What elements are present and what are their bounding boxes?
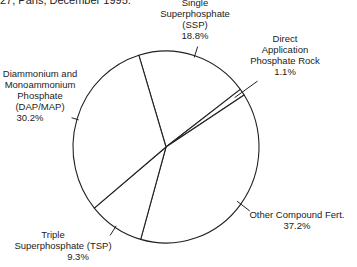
label-ssp-line1: Single bbox=[150, 0, 240, 8]
label-dap-line1: Diammonium and bbox=[0, 68, 80, 79]
label-direct-application: Direct Application Phosphate Rock 1.1% bbox=[235, 33, 335, 77]
label-other-value: 37.2% bbox=[242, 220, 352, 231]
label-tsp-line1: Triple bbox=[4, 229, 122, 240]
label-tsp-line2: Superphosphate (TSP) bbox=[4, 240, 122, 251]
label-direct-value: 1.1% bbox=[235, 66, 335, 77]
label-tsp: Triple Superphosphate (TSP) 9.3% bbox=[4, 229, 122, 262]
label-other-line1: Other Compound Fert. bbox=[242, 209, 352, 220]
label-direct-line1: Direct bbox=[235, 33, 335, 44]
label-ssp-value: 18.8% bbox=[150, 30, 240, 41]
label-tsp-value: 9.3% bbox=[4, 251, 122, 262]
label-dap-map: Diammonium and Monoammonium Phosphate (D… bbox=[0, 68, 80, 123]
label-ssp-line2: Superphosphate bbox=[150, 8, 240, 19]
label-direct-line2: Application bbox=[235, 44, 335, 55]
label-dap-line3: Phosphate bbox=[0, 90, 80, 101]
label-ssp-line3: (SSP) bbox=[150, 19, 240, 30]
label-dap-line4: (DAP/MAP) bbox=[0, 101, 80, 112]
label-other-compound: Other Compound Fert. 37.2% bbox=[242, 209, 352, 231]
label-dap-line2: Monoammonium bbox=[0, 79, 80, 90]
label-direct-line3: Phosphate Rock bbox=[235, 55, 335, 66]
label-dap-value: 30.2% bbox=[0, 112, 80, 123]
label-ssp: Single Superphosphate (SSP) 18.8% bbox=[150, 0, 240, 41]
